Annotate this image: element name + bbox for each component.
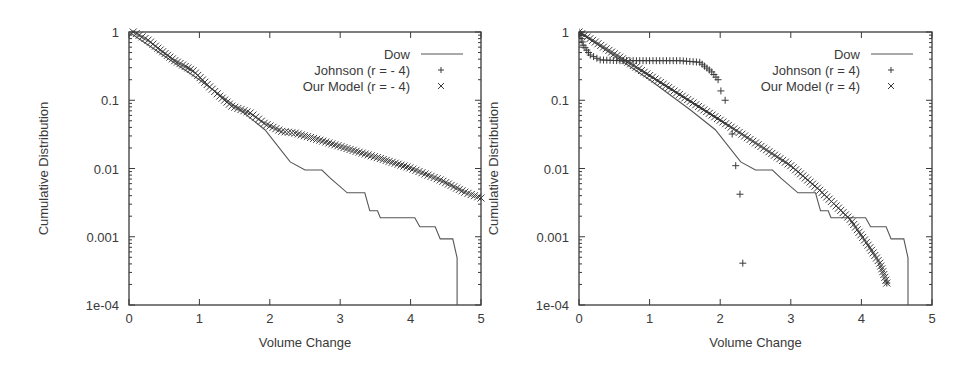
legend-label: Johnson (r = - 4)	[314, 63, 410, 78]
x-tick-label: 0	[125, 311, 132, 326]
y-tick-label: 1e-04	[86, 298, 119, 313]
legend-label: Dow	[384, 47, 411, 62]
x-tick-label: 5	[928, 311, 935, 326]
chart-right-canvas: 0123451e-040.0010.010.11Volume ChangeCum…	[450, 0, 940, 366]
plot-frame	[129, 32, 481, 305]
x-tick-label: 1	[646, 311, 653, 326]
y-axis-title: Cumulative Distribution	[486, 102, 501, 236]
legend-label: Dow	[834, 47, 861, 62]
y-tick-label: 1	[562, 25, 569, 40]
chart-left-canvas: 0123451e-040.0010.010.11Volume ChangeCum…	[0, 0, 490, 366]
legend: DowJohnson (r = - 4)Our Model (r = - 4)	[303, 47, 463, 94]
x-tick-label: 3	[787, 311, 794, 326]
x-tick-label: 1	[196, 311, 203, 326]
legend-label: Johnson (r = 4)	[772, 63, 860, 78]
x-axis-title: Volume Change	[709, 335, 802, 350]
y-tick-label: 0.001	[536, 230, 569, 245]
y-tick-label: 0.01	[94, 162, 119, 177]
legend-label: Our Model (r = 4)	[761, 79, 860, 94]
x-tick-label: 4	[407, 311, 414, 326]
x-tick-label: 0	[575, 311, 582, 326]
x-tick-label: 2	[717, 311, 724, 326]
x-axis-title: Volume Change	[259, 335, 352, 350]
legend-label: Our Model (r = - 4)	[303, 79, 410, 94]
y-tick-label: 1e-04	[536, 298, 569, 313]
x-tick-label: 4	[858, 311, 865, 326]
x-tick-label: 3	[337, 311, 344, 326]
y-tick-label: 1	[112, 25, 119, 40]
y-tick-label: 0.1	[551, 93, 569, 108]
series-johnson-markers	[576, 29, 747, 267]
y-axis-title: Cumulative Distribution	[36, 102, 51, 236]
y-tick-label: 0.001	[86, 230, 119, 245]
chart-left: 0123451e-040.0010.010.11Volume ChangeCum…	[0, 0, 490, 366]
chart-right: 0123451e-040.0010.010.11Volume ChangeCum…	[450, 0, 940, 366]
x-tick-label: 2	[266, 311, 273, 326]
y-tick-label: 0.1	[101, 93, 119, 108]
y-tick-label: 0.01	[544, 162, 569, 177]
legend: DowJohnson (r = 4)Our Model (r = 4)	[761, 47, 913, 94]
